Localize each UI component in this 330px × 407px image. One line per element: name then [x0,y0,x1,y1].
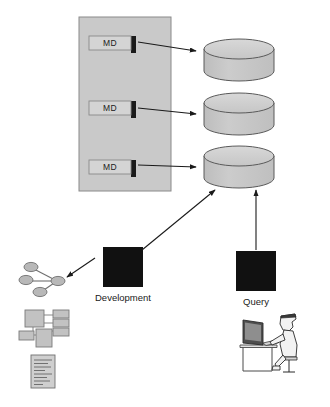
entity-box-main [25,310,44,327]
entity-box-attr-2 [53,319,69,327]
connector-development-to-artifacts [67,258,95,277]
diagram-svg: MD MD MD [0,0,330,407]
diagram-canvas: MD MD MD [0,0,330,407]
md-box-3[interactable]: MD [89,160,136,177]
md-box-3-label: MD [103,162,117,172]
entity-box-sub-1 [19,331,34,340]
database-cylinder-2-top [204,93,274,113]
database-cylinder-3-top [204,146,274,166]
node-graph-node-2 [19,275,33,284]
entity-box-attr-3 [53,328,69,336]
md-box-2-shadow-right [131,101,136,118]
query-block [236,251,276,291]
database-cylinder-1[interactable] [204,39,274,81]
node-graph-icon [19,262,65,296]
query-node[interactable]: Query [236,251,276,307]
database-cylinder-1-top [204,39,274,59]
development-label: Development [95,292,151,303]
entity-boxes-icon [19,310,69,347]
md-box-1-label: MD [103,38,117,48]
metadata-panel[interactable]: MD MD MD [79,17,171,191]
person-foot [272,366,280,370]
development-block [103,247,143,287]
node-graph-node-1 [24,262,38,271]
entity-box-attr-1 [53,310,69,318]
document-icon [31,355,55,388]
md-box-3-shadow-right [131,160,136,177]
node-graph-node-4 [51,276,65,285]
monitor-screen-glass [245,323,261,342]
connector-development-to-db3 [142,190,215,250]
database-cylinder-2[interactable] [204,93,274,135]
database-cylinder-3[interactable] [204,146,274,188]
md-box-2-label: MD [103,103,117,113]
desk-surface [240,345,277,348]
person-hair [281,314,296,318]
entity-box-sub-2 [36,329,52,347]
query-label: Query [243,296,269,307]
development-node[interactable]: Development [95,247,151,303]
md-box-1-shadow-right [131,36,136,53]
node-graph-node-3 [33,287,47,296]
md-box-2[interactable]: MD [89,101,136,118]
user-at-computer-icon [240,314,297,372]
